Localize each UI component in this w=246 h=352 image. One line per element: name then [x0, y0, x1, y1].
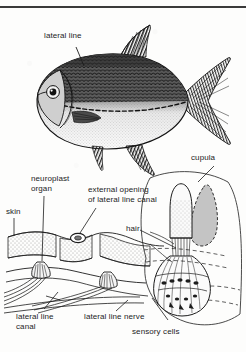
- label-cupula: cupula: [191, 153, 215, 163]
- label-neuroplast-organ-line2: organ: [31, 184, 52, 194]
- dorsal-fin: [120, 25, 150, 57]
- canal-cross-section: [4, 196, 164, 313]
- leader-lateral-line-nerve: [116, 300, 128, 311]
- label-skin: skin: [6, 207, 21, 217]
- skin-slab-left: [8, 232, 56, 258]
- skin-slab-right: [100, 234, 150, 266]
- label-external-opening-line2: of lateral line canal: [88, 195, 157, 205]
- lateral-line-nerve-fibres: [4, 277, 112, 313]
- cupula-deflected-shadow: [190, 185, 218, 246]
- inset-envelope-top: [150, 172, 228, 182]
- leader-cupula: [198, 166, 214, 182]
- label-lateral-line: lateral line: [44, 31, 82, 41]
- label-lateral-line-canal-line1: lateral line: [16, 312, 54, 322]
- neuromast-organ-left: [32, 262, 50, 278]
- label-external-opening-line1: external opening: [88, 185, 149, 195]
- leader-external-opening: [80, 208, 96, 233]
- caudal-fin: [183, 58, 230, 145]
- label-sensory-cells: sensory cells: [132, 327, 180, 337]
- anal-fin: [126, 145, 154, 175]
- neuromast-organ-right: [100, 272, 118, 288]
- label-lateral-line-canal-line2: canal: [16, 322, 36, 332]
- canal-floor-line: [6, 267, 146, 283]
- external-opening-pore: [71, 233, 86, 242]
- figure-page: lateral line cupula neuroplast organ ext…: [0, 0, 246, 352]
- pelvic-fin: [92, 146, 103, 170]
- label-lateral-line-nerve: lateral line nerve: [84, 312, 145, 322]
- label-hair: hair: [126, 224, 140, 234]
- canal-floor-line-2: [6, 278, 148, 296]
- label-neuroplast-organ-line1: neuroplast: [31, 174, 69, 184]
